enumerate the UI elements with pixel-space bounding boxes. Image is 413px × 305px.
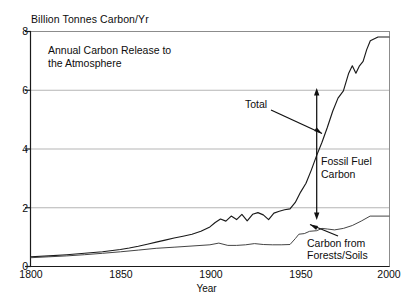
callout-label-fossil-fuel-carbon: Fossil Fuel Carbon	[321, 155, 372, 180]
cropped-caption-strip	[0, 298, 413, 305]
carbon-release-chart: Billion Tonnes Carbon/Yr 8 6 4 2 0 1800 …	[0, 0, 413, 305]
chart-intro-note: Annual Carbon Release to the Atmosphere	[48, 44, 171, 69]
callout-label-total: Total	[245, 98, 267, 111]
x-axis-title: Year	[0, 283, 413, 294]
callout-label-carbon-from-forests-soils: Carbon from Forests/Soils	[307, 237, 368, 261]
